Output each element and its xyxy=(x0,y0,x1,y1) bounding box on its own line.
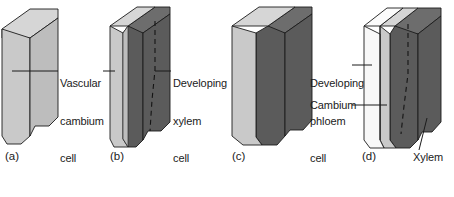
panel-b-cambium-side-band xyxy=(123,26,128,147)
label-vascular-cambium-cell-line2: cambium xyxy=(60,115,112,128)
panel-c-xylem-front-face xyxy=(256,26,285,145)
panel-d-xylem-side-face xyxy=(418,16,441,140)
panel-b-xylem-side-face xyxy=(143,14,170,140)
caption-a: (a) xyxy=(5,150,19,162)
panel-c-xylem-side-face xyxy=(285,14,312,136)
label-developing-xylem-cell-line3: cell xyxy=(173,152,233,165)
label-developing-xylem-cell-line1: Developing xyxy=(173,77,233,90)
label-developing-xylem-cell: Developing xylem cell xyxy=(173,52,233,177)
panel-a xyxy=(2,9,58,144)
label-developing-phloem-cell-line1: Developing xyxy=(310,77,374,90)
label-vascular-cambium-cell: Vascular cambium cell xyxy=(60,52,112,177)
caption-b: (b) xyxy=(110,150,124,162)
label-vascular-cambium-cell-line1: Vascular xyxy=(60,77,112,90)
panel-a-cambium-front-face xyxy=(2,29,30,144)
label-xylem: Xylem xyxy=(413,151,443,164)
caption-c: (c) xyxy=(232,150,245,162)
label-developing-phloem-cell-line2: phloem xyxy=(310,115,374,128)
label-cambium: Cambium xyxy=(310,99,356,112)
label-developing-xylem-cell-line2: xylem xyxy=(173,115,233,128)
label-vascular-cambium-cell-line3: cell xyxy=(60,152,112,165)
panel-a-cambium-side-face xyxy=(30,18,58,136)
caption-d: (d) xyxy=(362,150,376,162)
panel-d-xylem-front-face xyxy=(390,26,418,148)
